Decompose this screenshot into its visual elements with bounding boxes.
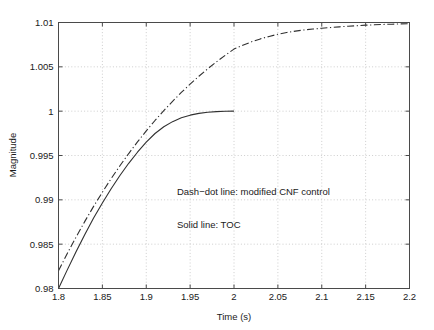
x-tick-label: 1.95 — [181, 291, 200, 302]
chart-annotation-label: Dash−dot line: modified CNF control — [177, 186, 330, 197]
y-tick-label: 0.99 — [35, 194, 54, 205]
figure-canvas: 1.81.851.91.9522.052.12.152.2 0.980.9850… — [0, 0, 434, 330]
y-tick-label: 0.995 — [30, 150, 54, 161]
x-tick-label: 2.05 — [269, 291, 288, 302]
x-tick-labels: 1.81.851.91.9522.052.12.152.2 — [52, 291, 416, 302]
x-tick-label: 2.15 — [356, 291, 375, 302]
chart-annotation-label: Solid line: TOC — [177, 219, 241, 230]
y-tick-label: 0.985 — [30, 239, 54, 250]
x-tick-label: 1.9 — [140, 291, 153, 302]
x-tick-label: 2 — [231, 291, 236, 302]
data-series-layer — [59, 24, 410, 289]
y-tick-label: 1 — [48, 106, 53, 117]
y-tick-label: 1.005 — [30, 61, 54, 72]
y-axis-title: Magnitude — [7, 133, 18, 177]
y-tick-label: 1.01 — [35, 17, 54, 28]
y-tick-labels: 0.980.9850.990.99511.0051.01 — [30, 17, 54, 294]
x-tick-label: 2.2 — [403, 291, 416, 302]
x-tick-label: 1.85 — [93, 291, 112, 302]
y-tick-label: 0.98 — [35, 283, 54, 294]
chart-annotations: Dash−dot line: modified CNF controlSolid… — [177, 186, 330, 230]
x-tick-label: 1.8 — [52, 291, 65, 302]
x-tick-label: 2.1 — [315, 291, 328, 302]
x-axis-title: Time (s) — [217, 311, 251, 322]
grid-lines — [59, 23, 410, 289]
line-chart: 1.81.851.91.9522.052.12.152.2 0.980.9850… — [0, 0, 434, 330]
